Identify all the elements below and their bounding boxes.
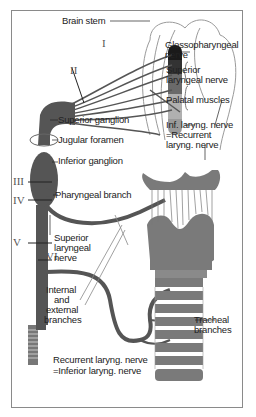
roman-numeral-V: V <box>13 236 21 248</box>
label-superior-laryngeal-3: nerve <box>54 253 77 263</box>
label-tracheal-2: branches <box>194 325 231 335</box>
larynx <box>142 170 220 278</box>
label-brain-stem: Brain stem <box>62 16 105 26</box>
roman-numeral-IV: IV <box>13 194 25 206</box>
label-inferior-ganglion: Inferior ganglion <box>58 156 123 166</box>
label-palatal-muscles: Palatal muscles <box>166 95 230 105</box>
label-recurrent-bottom-2: =Inferior laryng. nerve <box>53 366 141 376</box>
label-superior-laryngeal-top-2: laryngeal nerve <box>166 75 228 85</box>
label-recurrent-bottom-1: Recurrent laryng. nerve <box>53 355 148 365</box>
roman-numeral-III: III <box>13 175 24 187</box>
label-jugular-foramen: Jugular foramen <box>58 135 124 145</box>
trunk-end <box>28 325 38 365</box>
label-inf-laryng-3: laryng. nerve <box>166 140 218 150</box>
roman-numeral-I: I <box>102 37 106 49</box>
label-pharyngeal-branch: Pharyngeal branch <box>55 190 131 200</box>
roman-numeral-II: II <box>70 64 77 76</box>
label-glossopharyngeal-2: nerve <box>165 50 188 60</box>
label-internal-external-4: branches <box>44 315 81 325</box>
label-superior-ganglion: Superior ganglion <box>58 115 129 125</box>
